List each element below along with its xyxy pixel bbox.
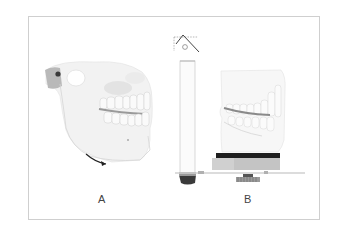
panel-b-articulator bbox=[174, 35, 305, 185]
incisal-pin bbox=[180, 61, 195, 173]
panel-label-b: B bbox=[244, 193, 251, 205]
panel-label-a: A bbox=[98, 193, 105, 205]
hinge-icon bbox=[183, 45, 188, 50]
figure-illustration bbox=[0, 0, 337, 233]
condyle-marker-icon bbox=[55, 71, 60, 76]
panel-a-skull bbox=[45, 62, 152, 166]
